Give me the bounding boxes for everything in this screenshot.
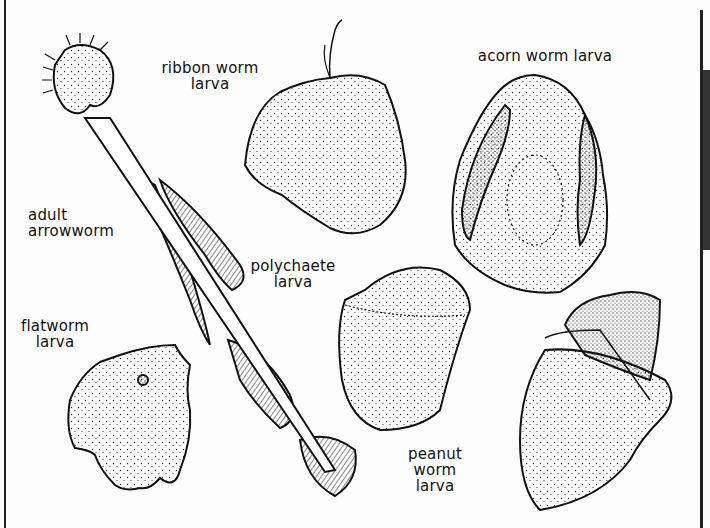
label-line: flatworm: [20, 318, 90, 334]
label-line: ribbon worm: [160, 60, 260, 76]
flatworm-larva-drawing: [68, 345, 190, 489]
illustration-canvas: ribbon worm larva acorn worm larva adult…: [0, 0, 710, 528]
label-adult-arrowworm: adult arrowworm: [28, 207, 108, 239]
label-line: polychaete: [248, 258, 338, 274]
label-line: larva: [248, 274, 338, 290]
label-line: adult: [28, 207, 108, 223]
label-line: larva: [160, 76, 260, 92]
label-line: worm: [405, 462, 465, 478]
label-ribbon-worm-larva: ribbon worm larva: [160, 60, 260, 92]
peanut-worm-larva-drawing: [520, 292, 671, 510]
label-line: larva: [20, 334, 90, 350]
label-line: arrowworm: [28, 223, 108, 239]
label-line: larva: [405, 478, 465, 494]
acorn-worm-larva-drawing: [452, 75, 607, 293]
drawings: [0, 0, 710, 528]
polychaete-larva-drawing: [339, 268, 470, 431]
label-line: peanut: [405, 446, 465, 462]
ribbon-worm-larva-drawing: [245, 20, 406, 233]
label-acorn-worm-larva: acorn worm larva: [470, 48, 620, 64]
label-line: acorn worm larva: [470, 48, 620, 64]
label-peanut-worm-larva: peanut worm larva: [405, 446, 465, 494]
label-polychaete-larva: polychaete larva: [248, 258, 338, 290]
label-flatworm-larva: flatworm larva: [20, 318, 90, 350]
